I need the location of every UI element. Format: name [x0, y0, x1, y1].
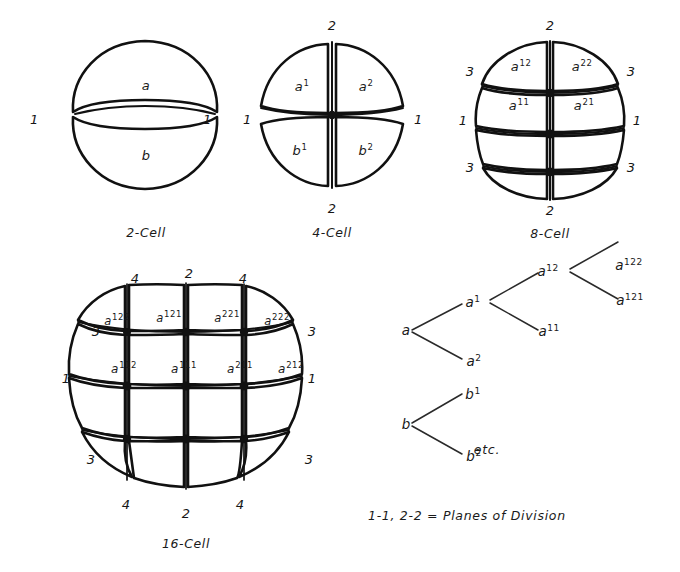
sixteen-cell-label-a112: a112	[111, 361, 137, 375]
sixteen-cell-plane-top-left: 4	[131, 272, 139, 285]
sixteen-cell-plane-top-right: 4	[239, 272, 247, 285]
eight-cell-label-a12: a12	[511, 59, 532, 73]
tree-etc-label: etc.	[474, 444, 501, 457]
planes-of-division-legend: 1-1, 2-2 = Planes of Division	[368, 510, 566, 523]
sixteen-cell-plane-left-lower: 3	[87, 453, 95, 466]
eight-cell-plane-left-upper: 3	[466, 65, 474, 78]
tree-node-a1: a1	[465, 295, 480, 310]
four-cell-plane-right: 1	[414, 113, 422, 126]
eight-cell-plane-top: 2	[546, 19, 554, 32]
sixteen-cell-label-a122: a122	[104, 313, 130, 327]
eight-cell-plane-left: 1	[459, 114, 467, 127]
eight-cell-plane-left-lower: 3	[466, 161, 474, 174]
sixteen-cell-label-a211: a211	[227, 361, 253, 375]
tree-node-a121: a121	[616, 293, 643, 308]
sixteen-cell-plane-top: 2	[185, 267, 193, 280]
tree-node-a11: a11	[538, 324, 559, 339]
sixteen-cell-plane-left-upper: 3	[92, 325, 100, 338]
sixteen-cell-plane-left: 1	[62, 372, 70, 385]
eight-cell-drawing	[460, 18, 640, 208]
sixteen-cell-plane-right-upper: 3	[308, 325, 316, 338]
sixteen-cell-label-a121: a121	[156, 310, 182, 324]
tree-node-a2: a2	[466, 354, 481, 369]
eight-cell-plane-right-lower: 3	[627, 161, 635, 174]
sixteen-cell-plane-bottom: 2	[182, 507, 190, 520]
sixteen-cell-plane-bottom-right: 4	[236, 498, 244, 511]
sixteen-cell-label-a222: a222	[264, 313, 290, 327]
eight-cell-plane-right: 1	[633, 114, 641, 127]
sixteen-cell-plane-right: 1	[308, 372, 316, 385]
eight-cell-plane-right-upper: 3	[627, 65, 635, 78]
four-cell-plane-bottom: 2	[328, 202, 336, 215]
tree-node-a122: a122	[615, 258, 642, 273]
four-cell-label-b1: b1	[293, 143, 308, 157]
tree-node-a: a	[402, 324, 410, 338]
sixteen-cell-plane-right-lower: 3	[305, 453, 313, 466]
tree-node-b1: b1	[465, 387, 480, 402]
eight-cell-caption: 8-Cell	[530, 228, 569, 241]
four-cell-plane-top: 2	[328, 19, 336, 32]
four-cell-label-a2: a2	[359, 79, 374, 93]
four-cell-drawing	[242, 18, 422, 208]
eight-cell-plane-bottom: 2	[546, 204, 554, 217]
four-cell-plane-left: 1	[243, 113, 251, 126]
sixteen-cell-label-a221: a221	[214, 310, 240, 324]
sixteen-cell-label-a111: a111	[171, 361, 197, 375]
two-cell-plane-left: 1	[30, 113, 38, 126]
tree-node-b: b	[402, 418, 411, 432]
figure-sheet: 1 1 a b 2-Cell 2 1 1 2 a1 a2 b1 b2 4-Cel…	[0, 0, 680, 572]
sixteen-cell-caption: 16-Cell	[162, 538, 210, 551]
sixteen-cell-label-a212: a212	[278, 361, 304, 375]
lineage-tree-branches	[380, 258, 660, 478]
sixteen-cell-drawing	[62, 268, 312, 518]
eight-cell-label-a22: a22	[572, 59, 593, 73]
two-cell-label-b: b	[142, 149, 151, 162]
four-cell-caption: 4-Cell	[312, 227, 351, 240]
two-cell-plane-right: 1	[203, 113, 211, 126]
four-cell-label-a1: a1	[295, 79, 310, 93]
four-cell-label-b2: b2	[359, 143, 374, 157]
two-cell-caption: 2-Cell	[126, 227, 165, 240]
eight-cell-label-a21: a21	[574, 98, 595, 112]
tree-node-a12: a12	[537, 264, 558, 279]
eight-cell-label-a11: a11	[509, 98, 530, 112]
two-cell-label-a: a	[142, 79, 150, 92]
sixteen-cell-plane-bottom-left: 4	[122, 498, 130, 511]
